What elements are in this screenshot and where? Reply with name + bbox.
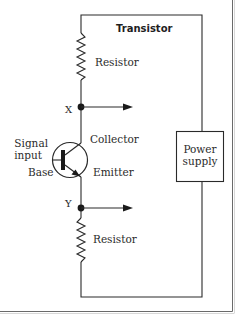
resistor-bottom-label: Resistor — [93, 233, 137, 245]
emitter-label: Emitter — [93, 166, 134, 178]
node-x — [78, 104, 133, 111]
node-y-label: Y — [65, 198, 72, 210]
collector-label: Collector — [90, 133, 139, 145]
diagram-title: Transistor — [116, 23, 172, 35]
transistor-symbol — [53, 143, 88, 178]
node-y — [78, 205, 133, 212]
resistor-top-symbol — [77, 33, 85, 80]
power-supply-label-line2: supply — [177, 155, 223, 167]
base-label: Base — [28, 166, 54, 178]
arrow-right-icon — [123, 205, 133, 212]
resistor-bottom-symbol — [77, 218, 85, 262]
arrow-right-icon — [123, 104, 133, 111]
signal-input-label-line1: Signal — [14, 137, 48, 149]
node-x-label: X — [65, 104, 72, 116]
signal-input-label-line2: input — [14, 149, 42, 161]
resistor-top-label: Resistor — [95, 56, 139, 68]
transistor-circuit-diagram: Transistor Resistor X Collector Signal i… — [0, 0, 237, 318]
power-supply-label-line1: Power — [177, 143, 223, 155]
